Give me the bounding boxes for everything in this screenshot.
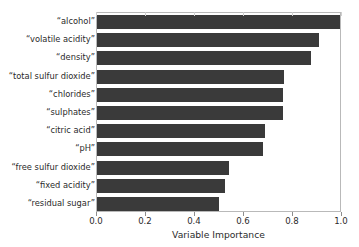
x-axis-tick-top [341, 12, 342, 16]
x-axis-tick-label: 0.4 [174, 216, 214, 226]
y-axis-label: “total sulfur dioxide” [0, 69, 95, 83]
y-axis-label: “volatile acidity” [0, 32, 95, 46]
bar-row [97, 106, 340, 120]
x-axis-tick-label: 0.2 [125, 216, 165, 226]
bar [97, 124, 265, 138]
y-axis-label: “fixed acidity” [0, 178, 95, 192]
y-axis-label: “sulphates” [0, 105, 95, 119]
x-axis-tick-label: 0.0 [76, 216, 116, 226]
bar-row [97, 124, 340, 138]
plot-area [96, 12, 341, 212]
variable-importance-bar-chart: “alcohol”“volatile acidity”“density”“tot… [0, 0, 359, 247]
bar [97, 197, 219, 211]
bar [97, 88, 283, 102]
bar-row [97, 15, 340, 29]
bar [97, 15, 340, 29]
bar [97, 51, 311, 65]
x-axis-tick-label: 0.6 [223, 216, 263, 226]
x-axis-tick-top [145, 12, 146, 16]
y-axis-label: “density” [0, 50, 95, 64]
x-axis-tick-top [96, 12, 97, 16]
bar [97, 142, 263, 156]
bar [97, 33, 319, 47]
y-axis-label: “free sulfur dioxide” [0, 160, 95, 174]
bar-row [97, 161, 340, 175]
x-axis-tick-top [243, 12, 244, 16]
bar-row [97, 33, 340, 47]
y-axis-label: “chlorides” [0, 87, 95, 101]
y-axis-label: “residual sugar” [0, 196, 95, 210]
bar-row [97, 70, 340, 84]
bar [97, 179, 225, 193]
bar [97, 161, 229, 175]
x-axis-tick-top [292, 12, 293, 16]
bar-row [97, 51, 340, 65]
bar [97, 106, 283, 120]
y-axis-label: “pH” [0, 141, 95, 155]
x-axis-tick-top [194, 12, 195, 16]
x-axis-tick-label: 0.8 [272, 216, 312, 226]
y-axis-label: “citric acid” [0, 123, 95, 137]
bar-row [97, 197, 340, 211]
x-axis-title: Variable Importance [96, 229, 341, 240]
bar-row [97, 179, 340, 193]
bar-row [97, 88, 340, 102]
bar [97, 70, 284, 84]
x-axis-tick-label: 1.0 [321, 216, 359, 226]
y-axis-label: “alcohol” [0, 14, 95, 28]
bar-row [97, 142, 340, 156]
